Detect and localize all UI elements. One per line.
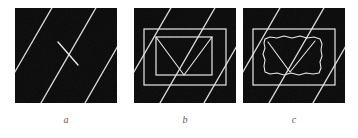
panel-a-grain bbox=[15, 8, 117, 103]
panel-b-grain bbox=[134, 8, 236, 103]
panel-b-caption: b bbox=[134, 114, 236, 125]
panel-b-canvas bbox=[134, 8, 236, 103]
panel-c-caption: c bbox=[243, 114, 345, 125]
figure-panel-group: a b c bbox=[0, 0, 358, 138]
panel-c-canvas bbox=[243, 8, 345, 103]
panel-a-caption: a bbox=[15, 114, 117, 125]
panel-b bbox=[134, 8, 236, 103]
panel-c-grain bbox=[243, 8, 345, 103]
panel-a-canvas bbox=[15, 8, 117, 103]
panel-c bbox=[243, 8, 345, 103]
panel-a bbox=[15, 8, 117, 103]
